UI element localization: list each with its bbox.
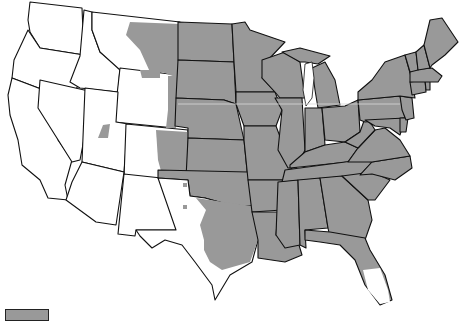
florida-south-outside — [363, 268, 390, 304]
range-patch-texas-dot2 — [183, 205, 187, 209]
state-indiana — [305, 108, 325, 152]
legend-swatch-range — [5, 309, 49, 321]
range-patch-wyoming-north — [140, 70, 160, 78]
state-north-dakota — [178, 22, 234, 62]
state-mississippi — [276, 180, 300, 248]
state-michigan-lower — [312, 62, 340, 108]
range-patch-texas-dot1 — [183, 183, 187, 187]
state-south-dakota — [176, 60, 236, 104]
state-arizona — [66, 162, 124, 225]
state-maine — [424, 18, 458, 68]
lake-michigan — [303, 62, 314, 106]
state-iowa — [236, 92, 282, 126]
